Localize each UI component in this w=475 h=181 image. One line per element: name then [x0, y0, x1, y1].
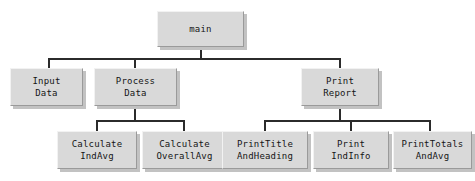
- node-print-totals-and-avg[interactable]: PrintTotals AndAvg: [393, 131, 472, 169]
- node-process-data-label: Process Data: [116, 75, 155, 99]
- node-print-title-and-heading[interactable]: PrintTitle AndHeading: [222, 131, 308, 169]
- node-calculate-overallavg[interactable]: Calculate OverallAvg: [142, 131, 227, 169]
- node-process-data[interactable]: Process Data: [94, 68, 177, 106]
- connector-process-data-bus: [96, 120, 185, 122]
- connector-process-data-drop: [134, 106, 136, 121]
- node-print-indinfo[interactable]: Print IndInfo: [313, 131, 389, 169]
- node-calculate-indavg-label: Calculate IndAvg: [72, 138, 123, 162]
- structure-chart-canvas: main Input Data Process Data Print Repor…: [0, 0, 475, 181]
- connector-print-report-drop: [339, 106, 341, 121]
- node-print-totals-and-avg-label: PrintTotals AndAvg: [402, 138, 464, 162]
- connector-print-report-bus: [264, 120, 431, 122]
- node-calculate-indavg[interactable]: Calculate IndAvg: [57, 131, 137, 169]
- node-input-data[interactable]: Input Data: [10, 68, 83, 106]
- node-input-data-label: Input Data: [32, 75, 60, 99]
- node-print-report-label: Print Report: [323, 75, 357, 99]
- node-main-label: main: [189, 23, 211, 35]
- node-print-report[interactable]: Print Report: [301, 68, 379, 106]
- node-print-title-and-heading-label: PrintTitle AndHeading: [237, 138, 293, 162]
- connector-level1-bus: [48, 58, 340, 60]
- node-calculate-overallavg-label: Calculate OverallAvg: [156, 138, 212, 162]
- node-main[interactable]: main: [157, 11, 244, 47]
- node-print-indinfo-label: Print IndInfo: [331, 138, 370, 162]
